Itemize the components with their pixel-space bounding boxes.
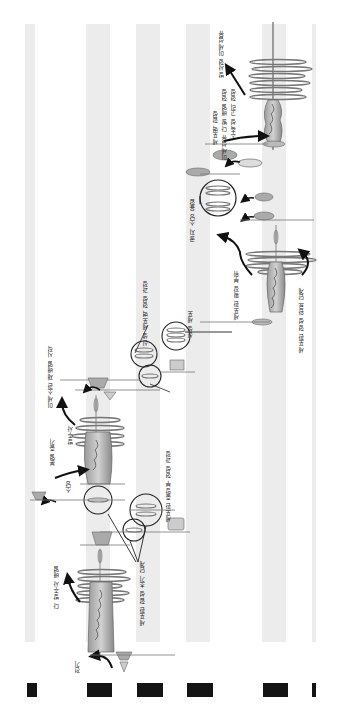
- label-contractile-ring: 수축성 고리 형성: [229, 88, 236, 138]
- label-cell-plate-complete: 세포판 형성 완료 단계: [297, 287, 304, 353]
- label-cell-plate-early: 세포판 합성 초기 단계: [138, 560, 145, 626]
- label-microfiber-bundle: 미세섬유 다발 배열 형성: [220, 88, 227, 160]
- label-cell-wall-synthesis: 세포벽 합성: [211, 110, 218, 145]
- vesicle-disc-left: [86, 378, 116, 400]
- label-cell-plate-center: 세포판 중앙부 형성 과정: [164, 450, 171, 522]
- label-vesicle: 소낭: [64, 480, 71, 493]
- label-microtubule-rearrangement: 미세소관 재배열 시작: [46, 345, 53, 408]
- label-golgi-vesicle-fusion: 골지 소낭 융합: [188, 198, 195, 242]
- vesicle-discs-top: [186, 150, 314, 220]
- label-new-cell-wall: 신생 세포벽 형성 과정: [141, 280, 148, 346]
- label-prophase: 전기: [73, 660, 80, 673]
- label-spindle: 방추사: [66, 425, 73, 445]
- label-new-cell: 신생 세포: [186, 310, 193, 338]
- label-metaphase: 분열 중기: [48, 438, 55, 466]
- label-spindle-arrangement: 다 방추사 배열: [52, 565, 59, 609]
- label-cell-plate-expansion: 세포판 확장 부위: [232, 270, 239, 320]
- spindle-structure-4: [68, 549, 175, 672]
- label-radial-microfibers: 방사형 미세섬유: [217, 30, 224, 78]
